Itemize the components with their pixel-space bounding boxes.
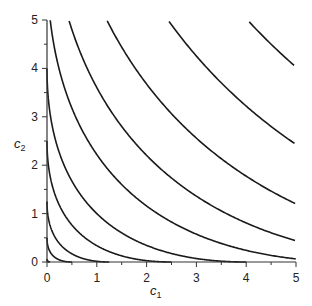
x-ticks: 012345 (44, 262, 300, 285)
level-curve-level-5 (47, 68, 246, 262)
x-axis-label: c1 (150, 283, 162, 300)
y-tick-label: 3 (31, 110, 38, 124)
y-tick-label: 4 (31, 61, 38, 75)
contour-chart: 012345 012345 c1 c2 (0, 0, 312, 306)
y-axis-label: c2 (14, 136, 26, 153)
level-curve-level-6 (50, 20, 295, 259)
y-tick-label: 1 (31, 207, 38, 221)
x-tick-label: 0 (44, 271, 51, 285)
x-tick-label: 3 (193, 271, 200, 285)
x-tick-label: 4 (243, 271, 250, 285)
y-tick-label: 0 (31, 255, 38, 269)
level-curve-level-2 (47, 238, 72, 262)
y-ticks: 012345 (31, 13, 47, 269)
level-curve-level-4 (47, 141, 172, 262)
x-tick-label: 5 (293, 271, 300, 285)
x-tick-label: 1 (93, 271, 100, 285)
level-curve-level-7 (69, 21, 295, 241)
y-tick-label: 2 (31, 158, 38, 172)
level-curves (47, 20, 296, 262)
level-curve-level-10 (249, 22, 294, 66)
y-tick-label: 5 (31, 13, 38, 27)
level-curve-level-8 (107, 21, 295, 204)
axes: 012345 012345 (31, 13, 299, 285)
level-curve-level-9 (169, 21, 294, 143)
